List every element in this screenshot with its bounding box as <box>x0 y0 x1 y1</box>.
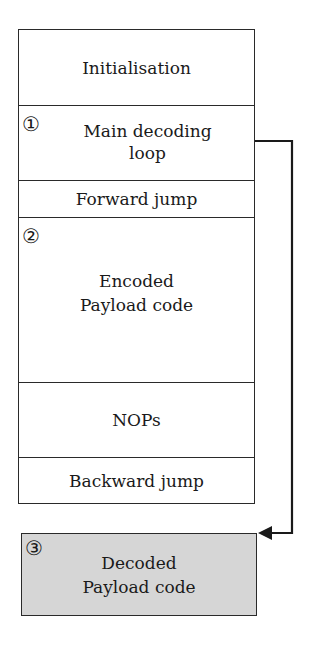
arrowhead-icon <box>258 526 272 540</box>
decode-flow-arrow <box>0 0 309 648</box>
